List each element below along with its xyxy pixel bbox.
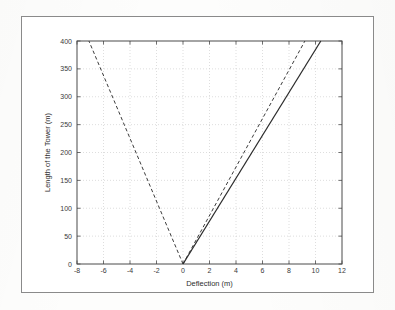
- figure-canvas: -8-6-4-202468101205010015020025030035040…: [0, 0, 395, 310]
- x-tick-label: 12: [338, 267, 346, 274]
- x-tick-label: 6: [261, 267, 265, 274]
- y-tick-label: 50: [64, 233, 72, 240]
- x-tick-label: 2: [208, 267, 212, 274]
- x-axis-title: Deflection (m): [186, 279, 233, 288]
- x-tick-label: -8: [74, 267, 80, 274]
- y-tick-label: 400: [60, 38, 72, 45]
- grid-layer: [77, 41, 342, 264]
- y-axis-title: Length of the Tower (m): [43, 112, 52, 192]
- x-tick-label: 0: [181, 267, 185, 274]
- series-left-dashed-deflection: [89, 41, 183, 264]
- y-tick-label: 250: [60, 121, 72, 128]
- x-tick-label: 10: [312, 267, 320, 274]
- series-right-dashed-deflection: [183, 41, 305, 264]
- x-tick-label: -6: [100, 267, 106, 274]
- y-tick-label: 350: [60, 65, 72, 72]
- y-tick-label: 150: [60, 177, 72, 184]
- x-tick-label: -4: [127, 267, 133, 274]
- x-tick-label: 8: [287, 267, 291, 274]
- x-tick-label: 4: [234, 267, 238, 274]
- data-series-layer: [89, 41, 321, 264]
- y-tick-label: 300: [60, 93, 72, 100]
- x-tick-label: -2: [153, 267, 159, 274]
- y-tick-label: 100: [60, 205, 72, 212]
- y-tick-label: 0: [68, 261, 72, 268]
- deflection-chart: -8-6-4-202468101205010015020025030035040…: [0, 0, 395, 310]
- y-tick-label: 200: [60, 149, 72, 156]
- axis-labels-layer: -8-6-4-202468101205010015020025030035040…: [43, 38, 346, 288]
